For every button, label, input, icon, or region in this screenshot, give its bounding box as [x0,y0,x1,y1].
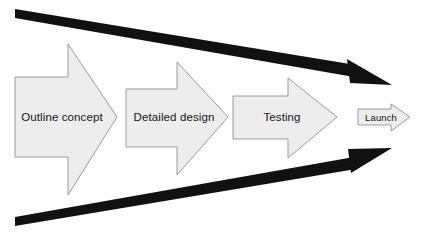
bottom-converging-arrow-shaft [15,157,356,226]
diagram-canvas: Outline concept Detailed design Testing … [0,0,425,235]
bottom-converging-arrow-head [348,148,392,173]
stage-arrow-outline-concept[interactable] [15,44,117,195]
top-converging-arrow-shaft [15,9,356,77]
stage-arrow-detailed-design[interactable] [126,62,228,175]
funnel-process-diagram [0,0,425,235]
stage-arrow-launch[interactable] [358,104,410,131]
stage-arrow-testing[interactable] [233,78,337,158]
top-converging-arrow-head [347,59,392,85]
